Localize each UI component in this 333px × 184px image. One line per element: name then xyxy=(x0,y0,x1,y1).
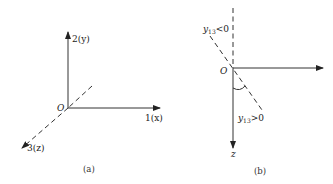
axis-y-label: 2(y) xyxy=(72,34,90,44)
angle-arc xyxy=(233,86,245,90)
upper-label: y13<0 xyxy=(202,24,229,35)
axis-z-arrow xyxy=(22,108,68,148)
axis-z-back-dashed xyxy=(68,86,92,108)
axis-z-label: z xyxy=(230,149,236,159)
panel-a: 2(y) O 1(x) 3(z) (a) xyxy=(22,32,163,174)
caption-b: (b) xyxy=(254,166,266,176)
axis-z-label: 3(z) xyxy=(27,143,45,153)
lower-label: y13>0 xyxy=(237,113,264,124)
origin-label: O xyxy=(220,66,228,76)
caption-a: (a) xyxy=(83,164,95,174)
figure: 2(y) O 1(x) 3(z) (a) O y13<0 y13>0 z (b) xyxy=(0,0,333,184)
axis-x-label: 1(x) xyxy=(145,113,163,123)
panel-b: O y13<0 y13>0 z (b) xyxy=(202,8,323,176)
inclined-dashed-line xyxy=(210,36,262,110)
origin-label: O xyxy=(57,103,65,113)
